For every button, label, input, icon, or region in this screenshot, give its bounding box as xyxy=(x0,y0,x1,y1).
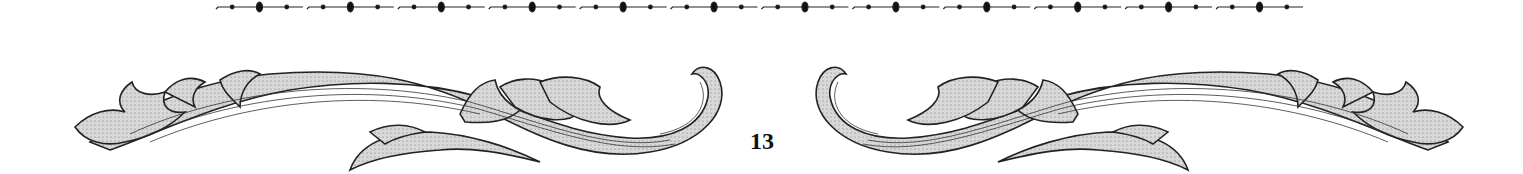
page-number: 13 xyxy=(737,128,787,155)
dotted-rule-divider xyxy=(0,0,1523,20)
acanthus-scroll-left-icon xyxy=(70,52,750,174)
acanthus-scroll-right-icon xyxy=(788,52,1468,174)
